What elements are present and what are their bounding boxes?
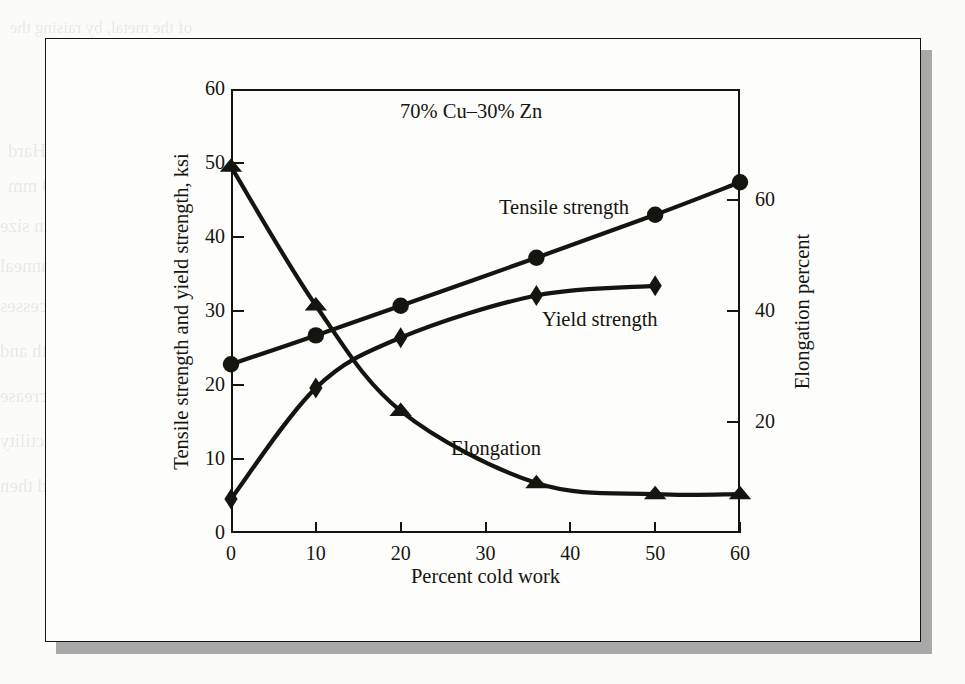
series-label-tensile-strength: Tensile strength — [499, 196, 629, 219]
data-point-marker — [649, 275, 662, 296]
data-point-marker — [528, 250, 544, 266]
data-point-marker — [220, 158, 242, 172]
series-label-elongation: Elongation — [451, 437, 541, 460]
data-point-marker — [223, 356, 239, 372]
series-tensile-strength — [223, 174, 748, 372]
series-label-yield-strength: Yield strength — [542, 308, 658, 331]
data-point-marker — [392, 298, 408, 314]
figure-caption-composition: 70% Cu–30% Zn — [400, 100, 542, 123]
series-curve — [231, 182, 740, 364]
data-point-marker — [394, 327, 407, 348]
data-point-marker — [647, 207, 663, 223]
data-point-marker — [305, 297, 327, 311]
data-point-marker — [308, 327, 324, 343]
data-point-marker — [732, 174, 748, 190]
data-point-marker — [530, 285, 543, 306]
